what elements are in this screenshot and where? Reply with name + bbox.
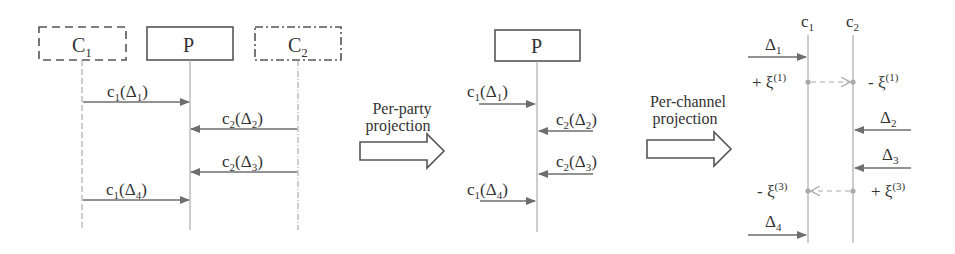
transition-label-line2: projection bbox=[653, 110, 718, 128]
svg-text:Δ3: Δ3 bbox=[882, 145, 899, 166]
transition-label-line1: Per-channel bbox=[650, 93, 727, 110]
message-c2-delta3: c2(Δ3) bbox=[191, 152, 297, 173]
svg-text:+ ξ(1): + ξ(1) bbox=[752, 71, 787, 92]
svg-text:c2(Δ3): c2(Δ3) bbox=[556, 152, 597, 173]
svg-text:Δ4: Δ4 bbox=[765, 212, 782, 233]
svg-text:P: P bbox=[183, 34, 194, 56]
panel-per-channel: c1 c2 Δ1 + ξ(1) - ξ(1) Δ2 Δ3 bbox=[748, 12, 911, 243]
projection-diagram: C1 P C2 c1(Δ1) c2(Δ2) c2(Δ3) bbox=[0, 0, 955, 254]
event-delta1: Δ1 bbox=[748, 35, 806, 57]
svg-text:Δ2: Δ2 bbox=[880, 108, 896, 129]
svg-text:c2(Δ2): c2(Δ2) bbox=[556, 110, 597, 131]
svg-text:c2(Δ3): c2(Δ3) bbox=[222, 152, 263, 173]
transition-per-party: Per-party projection bbox=[360, 100, 444, 168]
channel-label-c1: c1 bbox=[801, 12, 814, 33]
channel-label-c2: c2 bbox=[846, 12, 859, 33]
event-delta2: Δ2 bbox=[855, 108, 911, 130]
party-box-p: P bbox=[495, 30, 580, 61]
message-c2-delta2: c2(Δ2) bbox=[191, 109, 297, 130]
party-box-c1: C1 bbox=[39, 27, 126, 60]
transition-per-channel: Per-channel projection bbox=[647, 93, 731, 166]
svg-text:- ξ(1): - ξ(1) bbox=[868, 71, 899, 92]
block-arrow-icon bbox=[647, 132, 731, 166]
svg-text:+ ξ(3): + ξ(3) bbox=[871, 180, 906, 201]
panel-per-party: P c1(Δ1) c2(Δ2) c2(Δ3) c1(Δ4) bbox=[467, 30, 597, 232]
transition-label-line2: projection bbox=[366, 117, 431, 135]
panel-full-sequence: C1 P C2 c1(Δ1) c2(Δ2) c2(Δ3) bbox=[39, 27, 341, 230]
event-delta4: Δ4 bbox=[748, 212, 806, 235]
svg-text:C1: C1 bbox=[72, 34, 92, 60]
message-c2-delta2: c2(Δ2) bbox=[539, 110, 597, 131]
svg-text:C2: C2 bbox=[288, 34, 308, 60]
svg-text:c2(Δ2): c2(Δ2) bbox=[222, 109, 263, 130]
message-c1-delta4: c1(Δ4) bbox=[467, 180, 535, 201]
diagram-canvas: C1 P C2 c1(Δ1) c2(Δ2) c2(Δ3) bbox=[0, 0, 955, 254]
block-arrow-icon bbox=[360, 134, 444, 168]
party-box-p: P bbox=[147, 27, 233, 60]
message-c1-delta1: c1(Δ1) bbox=[83, 82, 189, 103]
message-c1-delta1: c1(Δ1) bbox=[467, 82, 535, 104]
svg-text:P: P bbox=[531, 35, 542, 57]
svg-text:c1(Δ4): c1(Δ4) bbox=[106, 180, 147, 201]
svg-text:c1(Δ1): c1(Δ1) bbox=[107, 82, 148, 103]
sync-xi3: - ξ(3) + ξ(3) bbox=[757, 180, 906, 201]
message-c1-delta4: c1(Δ4) bbox=[83, 180, 189, 201]
message-c2-delta3: c2(Δ3) bbox=[539, 152, 597, 174]
event-delta3: Δ3 bbox=[855, 145, 911, 168]
sync-xi1: + ξ(1) - ξ(1) bbox=[752, 71, 899, 92]
svg-text:- ξ(3): - ξ(3) bbox=[757, 180, 788, 201]
svg-text:c1(Δ4): c1(Δ4) bbox=[467, 180, 508, 201]
transition-label-line1: Per-party bbox=[372, 100, 431, 118]
party-box-c2: C2 bbox=[255, 27, 341, 60]
svg-text:Δ1: Δ1 bbox=[765, 35, 781, 56]
svg-text:c1(Δ1): c1(Δ1) bbox=[467, 82, 508, 103]
